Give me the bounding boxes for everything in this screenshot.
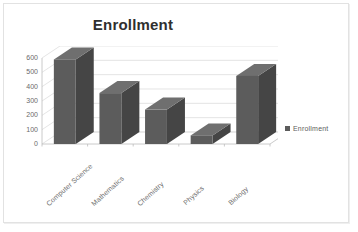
category-axis-label: Physics — [182, 185, 205, 207]
y-axis-tick-label: 500 — [10, 68, 38, 75]
plot-area: 0100200300400500600 — [16, 46, 278, 156]
y-axis-tick-label: 200 — [10, 111, 38, 118]
y-axis-tick-label: 400 — [10, 83, 38, 90]
category-axis-label: Chemistry — [136, 180, 165, 207]
category-axis-label: Mathematics — [90, 175, 125, 207]
chart-legend: Enrollment — [285, 125, 328, 132]
y-axis-tick-label: 0 — [10, 140, 38, 147]
legend-item-label: Enrollment — [293, 125, 328, 132]
bars-group — [54, 47, 276, 144]
chart-title: Enrollment — [4, 16, 262, 33]
square-marker-icon — [285, 126, 290, 131]
y-axis-tick-label: 100 — [10, 126, 38, 133]
chart-frame: Enrollment 0100200300400500600 Computer … — [3, 3, 349, 223]
chart-canvas — [16, 46, 278, 156]
category-axis-labels: Computer ScienceMathematicsChemistryPhys… — [16, 154, 296, 216]
category-axis-label: Biology — [227, 185, 249, 206]
y-axis-tick-label: 600 — [10, 54, 38, 61]
category-axis-label: Computer Science — [45, 162, 94, 207]
y-axis-tick-label: 300 — [10, 97, 38, 104]
